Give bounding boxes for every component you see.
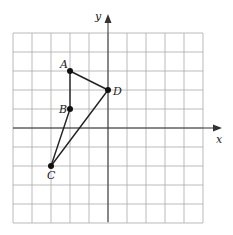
x-axis-label: x (216, 133, 223, 146)
coordinate-plane: x y ABCD (0, 0, 233, 235)
quadrilateral (51, 71, 108, 166)
point-label-D: D (112, 85, 122, 98)
point-D (105, 87, 111, 93)
y-axis-label: y (94, 10, 102, 23)
y-axis-arrow-icon (105, 14, 112, 23)
y-axis: y (94, 10, 112, 222)
x-axis-arrow-icon (213, 125, 222, 132)
segment-BC (51, 109, 70, 166)
point-label-B: B (58, 103, 67, 116)
point-label-A: A (59, 58, 68, 71)
points: ABCD (47, 58, 122, 182)
x-axis: x (13, 125, 223, 147)
point-label-C: C (47, 169, 56, 182)
point-B (67, 106, 73, 112)
